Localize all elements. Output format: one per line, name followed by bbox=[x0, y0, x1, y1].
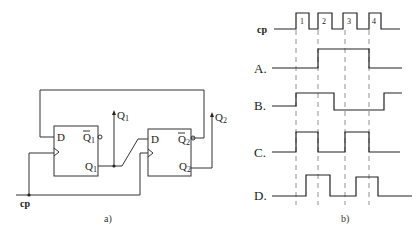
option-c-waveform bbox=[272, 132, 400, 152]
option-b-waveform bbox=[272, 93, 402, 110]
timing-diagram: cp 1 2 3 4 A. B. C. D. b) bbox=[254, 13, 412, 225]
q2-output-label: Q2 bbox=[215, 111, 227, 125]
option-d-waveform bbox=[272, 175, 412, 196]
pulse-2-label: 2 bbox=[322, 17, 326, 26]
cp-waveform bbox=[274, 13, 400, 29]
option-a-waveform bbox=[272, 49, 402, 68]
cp-label: cp bbox=[257, 24, 267, 35]
circuit-diagram: D Q1 Q1 Q1 D Q2 Q2 Q2 cp a) bbox=[16, 90, 227, 225]
clock-label: cp bbox=[20, 198, 30, 209]
q1-arrow-icon bbox=[112, 110, 116, 115]
option-c-label: C. bbox=[254, 145, 266, 160]
figure-b-caption: b) bbox=[341, 213, 349, 225]
q1-output-label: Q1 bbox=[117, 109, 129, 123]
q2-output-wire bbox=[191, 116, 212, 168]
q2-arrow-icon bbox=[210, 112, 214, 117]
pulse-3-label: 3 bbox=[347, 17, 351, 26]
option-b-label: B. bbox=[254, 98, 266, 113]
clock-to-ff1-wire bbox=[29, 153, 54, 195]
option-d-label: D. bbox=[254, 188, 267, 203]
diagram-canvas: D Q1 Q1 Q1 D Q2 Q2 Q2 cp a) bbox=[0, 0, 418, 240]
option-a-label: A. bbox=[254, 61, 267, 76]
clock-junction-dot bbox=[27, 193, 30, 196]
ff1-inverter-bubble bbox=[98, 135, 102, 139]
clock-to-ff2-wire bbox=[140, 153, 148, 195]
ff2-d-label: D bbox=[151, 133, 159, 145]
pulse-1-label: 1 bbox=[300, 17, 304, 26]
figure-a-caption: a) bbox=[104, 213, 112, 225]
pulse-4-label: 4 bbox=[372, 17, 376, 26]
ff1-d-label: D bbox=[57, 131, 65, 143]
